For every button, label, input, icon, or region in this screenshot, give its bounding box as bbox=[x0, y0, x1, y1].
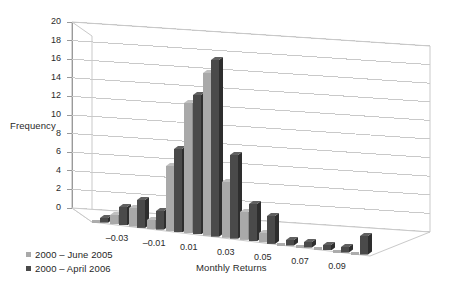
bar-zero-marker bbox=[351, 252, 359, 255]
bar bbox=[267, 213, 279, 244]
y-tick-label: 4 bbox=[39, 165, 61, 175]
bar-zero-marker bbox=[296, 245, 304, 248]
bar-zero-marker bbox=[314, 247, 322, 250]
legend-swatch-series-2 bbox=[26, 266, 31, 271]
y-tick-label: 6 bbox=[39, 146, 61, 156]
x-tick-label: –0.03 bbox=[106, 233, 129, 243]
y-tick-label: 12 bbox=[39, 90, 61, 100]
y-tick-label: 0 bbox=[39, 202, 61, 212]
legend-label-series-1: 2000 – June 2005 bbox=[35, 249, 113, 260]
chart-legend: 2000 – June 2005 2000 – April 2006 bbox=[26, 247, 113, 275]
legend-swatch-series-1 bbox=[26, 252, 31, 257]
bar-zero-marker bbox=[92, 220, 100, 223]
x-tick-label: –0.01 bbox=[143, 238, 166, 248]
y-tick-label: 16 bbox=[39, 53, 61, 63]
y-tick-label: 10 bbox=[39, 109, 61, 119]
y-axis-title: Frequency bbox=[10, 120, 56, 131]
x-axis-title: Monthly Returns bbox=[196, 262, 267, 273]
bar-zero-marker bbox=[277, 243, 285, 246]
y-tick-label: 2 bbox=[39, 183, 61, 193]
x-tick-label: 0.07 bbox=[291, 256, 309, 266]
legend-item-series-2: 2000 – April 2006 bbox=[26, 261, 113, 275]
histogram-chart: 20181614121086420 –0.03–0.010.010.030.05… bbox=[0, 0, 452, 291]
x-tick-label: 0.03 bbox=[217, 247, 235, 257]
legend-item-series-1: 2000 – June 2005 bbox=[26, 247, 113, 261]
y-tick-label: 20 bbox=[39, 16, 61, 26]
x-tick-label: 0.09 bbox=[328, 261, 346, 271]
legend-label-series-2: 2000 – April 2006 bbox=[35, 263, 111, 274]
y-tick-label: 18 bbox=[39, 35, 61, 45]
bar-zero-marker bbox=[333, 250, 341, 253]
x-tick-label: 0.01 bbox=[180, 242, 198, 252]
x-tick-label: 0.05 bbox=[254, 252, 272, 262]
y-tick-label: 14 bbox=[39, 72, 61, 82]
bar bbox=[360, 233, 372, 255]
